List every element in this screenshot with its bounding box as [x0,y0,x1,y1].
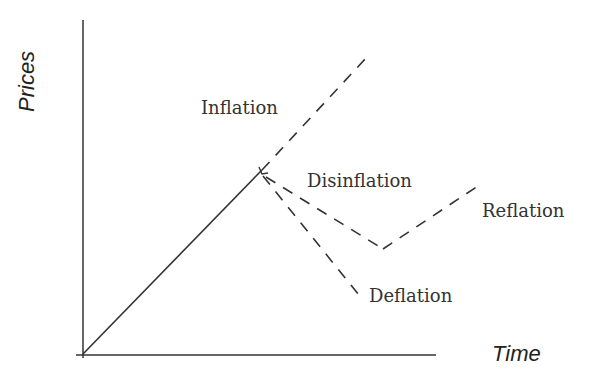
deflation-label: Deflation [369,285,452,306]
diagram-canvas [0,0,601,385]
reflation-label: Reflation [482,200,564,221]
disinflation-label: Disinflation [307,170,412,191]
deflation-path [263,176,363,300]
historical-rise-line [83,170,262,354]
reflation-path [383,186,478,249]
price-phases-diagram: Prices Time Inflation Disinflation Refla… [0,0,601,385]
x-axis-title: Time [492,341,541,367]
y-axis-title: Prices [14,51,40,112]
inflation-label: Inflation [201,97,278,118]
